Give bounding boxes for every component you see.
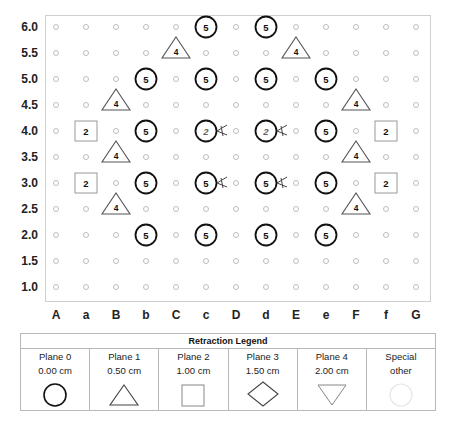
marker-label: 4	[354, 151, 359, 161]
marker-label: 4	[114, 99, 119, 109]
circle-marker: 5	[196, 225, 217, 246]
legend-item-plane-3: Plane 3 1.50 cm	[229, 349, 298, 411]
marker-label: 5	[263, 230, 269, 241]
square-marker: 2	[75, 173, 97, 193]
marker-label: 5	[143, 178, 149, 189]
cut-mark-icon	[217, 177, 227, 188]
triangle-marker: 4	[162, 37, 190, 58]
circle-marker: 5	[316, 69, 337, 90]
marker-label: 4	[114, 151, 119, 161]
triangle-marker: 4	[342, 89, 370, 110]
triangle-icon	[108, 382, 140, 408]
marker-label: 2	[383, 126, 388, 137]
legend-item-value: other	[367, 365, 435, 376]
marker-label: 5	[323, 126, 329, 137]
marker-label: 5	[263, 178, 269, 189]
legend-item-name: Plane 1	[90, 351, 158, 362]
circle-marker: 5	[136, 225, 157, 246]
circle-marker: 5	[136, 173, 157, 194]
marker-label: 5	[263, 22, 269, 33]
diamond-icon	[246, 380, 280, 408]
marker-label: 4	[354, 203, 359, 213]
cut-mark-icon	[277, 125, 287, 136]
marker-label: 5	[143, 126, 149, 137]
circle-marker: 5	[316, 121, 337, 142]
circle-marker: 2	[256, 121, 288, 142]
legend-item-plane-0: Plane 0 0.00 cm	[21, 349, 90, 411]
triangle-marker: 4	[102, 141, 130, 162]
square-icon	[179, 382, 207, 408]
legend-item-name: Special	[367, 351, 435, 362]
legend-item-value: 1.50 cm	[229, 365, 297, 376]
circle-marker: 5	[196, 69, 217, 90]
legend-item-value: 2.00 cm	[298, 365, 366, 376]
legend-item-plane-4: Plane 4 2.00 cm	[298, 349, 367, 411]
square-marker: 2	[75, 121, 97, 141]
marker-label: 2	[83, 126, 88, 137]
marker-label: 5	[203, 230, 209, 241]
triangle-marker: 4	[342, 141, 370, 162]
legend-item-plane-1: Plane 1 0.50 cm	[90, 349, 159, 411]
legend-item-name: Plane 0	[21, 351, 89, 362]
square-marker: 2	[375, 121, 397, 141]
legend-item-name: Plane 3	[229, 351, 297, 362]
marker-label: 5	[323, 230, 329, 241]
marker-label: 5	[323, 74, 329, 85]
circle-marker: 5	[256, 69, 277, 90]
legend-item-name: Plane 4	[298, 351, 366, 362]
triangle-marker: 4	[342, 193, 370, 214]
legend-item-plane-2: Plane 2 1.00 cm	[159, 349, 228, 411]
inverted-triangle-icon	[316, 382, 348, 408]
marker-label: 5	[203, 74, 209, 85]
legend-item-value: 1.00 cm	[159, 365, 227, 376]
circle-marker: 5	[136, 69, 157, 90]
marker-label: 2	[83, 178, 88, 189]
circle-marker: 5	[256, 225, 277, 246]
circle-marker: 5	[316, 225, 337, 246]
retraction-legend: Retraction Legend Plane 0 0.00 cm Plane …	[20, 333, 436, 411]
triangle-marker: 4	[102, 89, 130, 110]
legend-item-value: 0.00 cm	[21, 365, 89, 376]
marker-label: 4	[294, 47, 299, 57]
faint-circle-icon	[386, 382, 416, 408]
retraction-grid-diagram: 6.05.55.04.54.03.53.02.52.01.51.0 AaBbCc…	[0, 0, 453, 330]
marker-label: 2	[202, 126, 209, 137]
legend-item-value: 0.50 cm	[90, 365, 158, 376]
legend-item-name: Plane 2	[159, 351, 227, 362]
circle-icon	[40, 382, 70, 408]
marker-label: 5	[143, 230, 149, 241]
square-marker: 2	[375, 173, 397, 193]
cut-mark-icon	[277, 177, 287, 188]
circle-marker: 5	[256, 17, 277, 38]
circle-marker: 5	[316, 173, 337, 194]
circle-marker: 2	[196, 121, 228, 142]
marker-label: 4	[354, 99, 359, 109]
legend-title: Retraction Legend	[21, 334, 435, 349]
legend-item-special: Special other	[367, 349, 435, 411]
marker-label: 5	[263, 74, 269, 85]
circle-marker: 5	[196, 173, 228, 194]
marker-label: 5	[323, 178, 329, 189]
marker-label: 4	[174, 47, 179, 57]
marker-label: 4	[114, 203, 119, 213]
triangle-marker: 4	[282, 37, 310, 58]
circle-marker: 5	[136, 121, 157, 142]
marker-label: 2	[262, 126, 269, 137]
markers-layer: 554455554425225244255552445555	[0, 0, 453, 330]
marker-label: 5	[203, 178, 209, 189]
circle-marker: 5	[196, 17, 217, 38]
legend-row: Plane 0 0.00 cm Plane 1 0.50 cm Plane 2 …	[21, 349, 435, 411]
triangle-marker: 4	[102, 193, 130, 214]
circle-marker: 5	[256, 173, 288, 194]
marker-label: 2	[383, 178, 388, 189]
marker-label: 5	[143, 74, 149, 85]
marker-label: 5	[203, 22, 209, 33]
cut-mark-icon	[217, 125, 227, 136]
